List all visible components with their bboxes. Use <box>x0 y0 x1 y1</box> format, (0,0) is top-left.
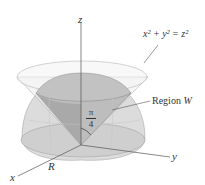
equation-leader <box>144 45 158 63</box>
angle-label: π 4 <box>86 108 96 129</box>
radius-label: R <box>48 161 55 172</box>
region-symbol: W <box>183 95 191 106</box>
equation-label: x² + y² = z² <box>143 29 188 39</box>
y-axis-label: y <box>172 151 177 162</box>
z-axis-label: z <box>78 14 82 25</box>
region-label: Region W <box>152 96 192 106</box>
angle-denominator: 4 <box>89 119 94 129</box>
region-text: Region <box>152 95 181 106</box>
x-axis-label: x <box>10 172 15 183</box>
angle-numerator: π <box>89 107 94 117</box>
